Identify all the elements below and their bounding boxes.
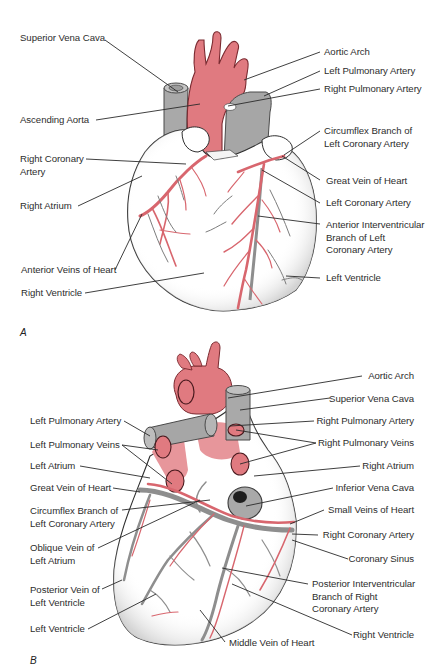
label-left-atrium: Left Atrium bbox=[30, 460, 75, 473]
label-middle-vein-of-heart: Middle Vein of Heart bbox=[229, 637, 314, 650]
label-great-vein-of-heart-a: Great Vein of Heart bbox=[326, 175, 407, 188]
heart-illustrations bbox=[0, 0, 442, 669]
label-posterior-vein-left-ventricle: Posterior Vein of Left Ventricle bbox=[30, 584, 100, 609]
ivc-shape bbox=[228, 487, 262, 519]
label-superior-vena-cava-b: Superior Vena Cava bbox=[329, 393, 414, 406]
panel-letter-b: B bbox=[30, 655, 37, 666]
label-left-pulmonary-artery-a: Left Pulmonary Artery bbox=[324, 65, 415, 78]
label-circumflex-branch-a: Circumflex Branch of Left Coronary Arter… bbox=[324, 125, 412, 150]
label-oblique-vein-left-atrium: Oblique Vein of Left Atrium bbox=[30, 542, 94, 567]
label-right-coronary-artery: Right Coronary Artery bbox=[20, 153, 84, 178]
label-aortic-arch-a: Aortic Arch bbox=[324, 46, 370, 59]
heart-anatomy-figure: Superior Vena Cava Ascending Aorta Right… bbox=[0, 0, 442, 669]
label-right-pulmonary-artery-b: Right Pulmonary Artery bbox=[316, 415, 414, 428]
label-right-pulmonary-artery-a: Right Pulmonary Artery bbox=[324, 83, 422, 96]
label-coronary-sinus: Coronary Sinus bbox=[349, 553, 414, 566]
heart-anterior-view bbox=[128, 32, 317, 311]
label-right-atrium-b: Right Atrium bbox=[362, 460, 414, 473]
aortic-arch-posterior-shape bbox=[174, 342, 232, 414]
label-right-pulmonary-veins: Right Pulmonary Veins bbox=[318, 437, 414, 450]
label-right-atrium: Right Atrium bbox=[20, 200, 72, 213]
label-posterior-interventricular-branch: Posterior Interventricular Branch of Rig… bbox=[312, 578, 415, 616]
label-left-pulmonary-veins: Left Pulmonary Veins bbox=[30, 439, 120, 452]
label-aortic-arch-b: Aortic Arch bbox=[368, 370, 414, 383]
label-left-ventricle-a: Left Ventricle bbox=[326, 272, 381, 285]
label-left-coronary-artery: Left Coronary Artery bbox=[326, 197, 411, 210]
label-anterior-interventricular-branch: Anterior Interventricular Branch of Left… bbox=[326, 219, 424, 257]
label-small-veins-of-heart: Small Veins of Heart bbox=[328, 504, 414, 517]
label-left-ventricle-b: Left Ventricle bbox=[30, 623, 85, 636]
label-circumflex-branch-b: Circumflex Branch of Left Coronary Arter… bbox=[30, 505, 118, 530]
label-great-vein-of-heart-b: Great Vein of Heart bbox=[30, 482, 111, 495]
label-ascending-aorta: Ascending Aorta bbox=[20, 114, 89, 127]
label-superior-vena-cava: Superior Vena Cava bbox=[20, 32, 105, 45]
label-inferior-vena-cava: Inferior Vena Cava bbox=[335, 482, 414, 495]
label-right-ventricle-b: Right Ventricle bbox=[353, 629, 414, 642]
label-left-pulmonary-artery-b: Left Pulmonary Artery bbox=[30, 415, 121, 428]
label-anterior-veins-of-heart: Anterior Veins of Heart bbox=[21, 264, 116, 277]
label-right-ventricle-a: Right Ventricle bbox=[21, 287, 82, 300]
label-right-coronary-artery-b: Right Coronary Artery bbox=[323, 529, 414, 542]
panel-letter-a: A bbox=[20, 327, 27, 338]
